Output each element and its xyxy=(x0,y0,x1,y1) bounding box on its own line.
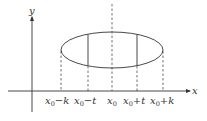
x-axis-label: x xyxy=(192,85,198,96)
diagram-canvas: y x x0−k x0−t x0 x0+t x0+k xyxy=(0,0,207,121)
tick-label-x0-minus-k: x0−k xyxy=(45,95,69,108)
tick-label-x0-plus-k: x0+k xyxy=(150,95,174,108)
tick-label-x0-plus-t: x0+t xyxy=(123,95,146,108)
svg-text:x0−k: x0−k xyxy=(45,95,69,108)
tick-label-x0-minus-t: x0−t xyxy=(74,95,97,108)
tick-label-x0: x0 xyxy=(107,95,117,108)
svg-text:x0: x0 xyxy=(107,95,117,108)
svg-text:x0−t: x0−t xyxy=(74,95,97,108)
y-axis-label: y xyxy=(28,5,35,16)
svg-text:x0+t: x0+t xyxy=(123,95,146,108)
svg-text:x0+k: x0+k xyxy=(150,95,174,108)
